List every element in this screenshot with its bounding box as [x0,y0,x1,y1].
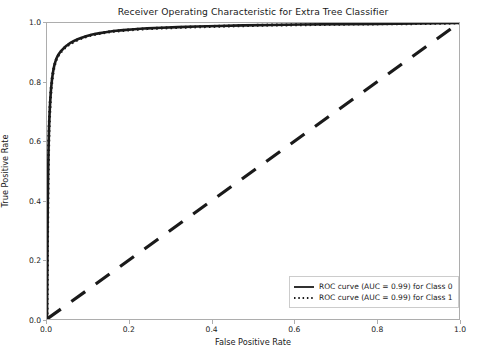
y-tick-mark [43,141,47,142]
x-tick-mark [46,320,47,324]
x-tick-mark [377,320,378,324]
x-axis-label: False Positive Rate [46,337,460,347]
solid-line-icon [294,282,314,292]
x-tick-label: 1.0 [454,325,466,334]
chart-title: Receiver Operating Characteristic for Ex… [46,6,460,17]
y-tick-label: 0.8 [29,77,41,86]
x-tick-mark [129,320,130,324]
x-tick-label: 0.0 [40,325,52,334]
x-tick-label: 0.4 [206,325,218,334]
y-tick-mark [43,320,47,321]
y-axis-label: True Positive Rate [0,135,10,208]
chance-diagonal-line [47,23,459,319]
y-tick-label: 0.4 [29,196,41,205]
y-tick-mark [43,22,47,23]
y-tick-label: 0.6 [29,137,41,146]
plot-canvas [47,23,459,319]
x-tick-label: 0.2 [123,325,135,334]
legend-item-class-0: ROC curve (AUC = 0.99) for Class 0 [294,281,453,292]
chart-legend: ROC curve (AUC = 0.99) for Class 0 ROC c… [289,276,459,308]
x-tick-mark [212,320,213,324]
x-tick-mark [294,320,295,324]
y-tick-label: 1.0 [29,18,41,27]
y-tick-mark [43,201,47,202]
y-tick-mark [43,82,47,83]
legend-item-class-1: ROC curve (AUC = 0.99) for Class 1 [294,292,453,303]
dotted-line-icon [294,293,314,303]
x-tick-label: 0.8 [371,325,383,334]
x-tick-label: 0.6 [288,325,300,334]
y-tick-mark [43,260,47,261]
roc-chart-figure: Receiver Operating Characteristic for Ex… [0,0,479,358]
y-tick-label: 0.2 [29,256,41,265]
legend-label-class-1: ROC curve (AUC = 0.99) for Class 1 [319,293,453,303]
y-tick-label: 0.0 [29,316,41,325]
legend-label-class-0: ROC curve (AUC = 0.99) for Class 0 [319,282,453,292]
x-tick-mark [460,320,461,324]
